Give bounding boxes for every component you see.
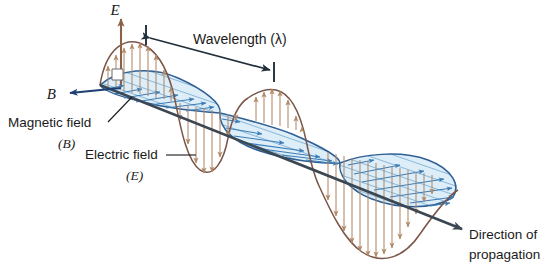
- magnetic-field-label: Magnetic field: [8, 115, 91, 130]
- direction-of-propagation-label-line1: Direction of: [469, 227, 538, 242]
- wavelength-label: Wavelength (λ): [193, 31, 287, 47]
- b-axis-label: B: [47, 86, 56, 102]
- e-axis-label: E: [109, 2, 119, 18]
- em-wave-figure: E B Wavelength (λ) Magnetic field (B) El…: [0, 0, 550, 273]
- magnetic-field-symbol: (B): [58, 136, 76, 151]
- right-angle-marker-icon: [112, 69, 123, 80]
- direction-of-propagation-label-line2: propagation: [469, 247, 540, 262]
- electric-field-label: Electric field: [85, 147, 158, 162]
- electric-field-symbol: (E): [126, 168, 144, 183]
- em-wave-svg: E B Wavelength (λ) Magnetic field (B) El…: [0, 0, 550, 273]
